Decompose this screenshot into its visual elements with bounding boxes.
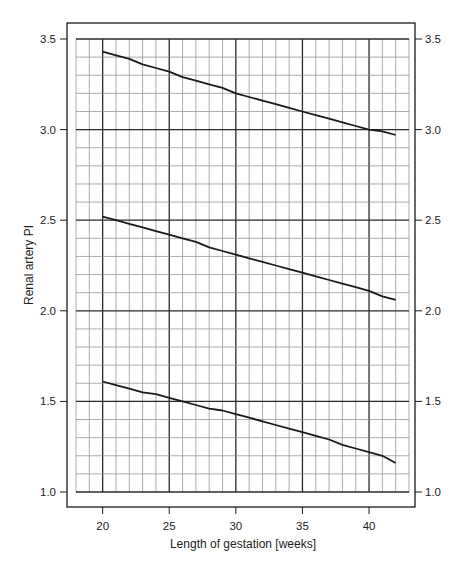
y-tick-label: 2.0 xyxy=(40,305,56,317)
x-tick-label: 30 xyxy=(229,520,242,532)
y-tick-label-right: 3.0 xyxy=(425,124,441,136)
x-tick-label: 25 xyxy=(163,520,176,532)
y-tick-label: 2.5 xyxy=(40,214,56,226)
y-tick-label: 1.0 xyxy=(40,486,56,498)
y-tick-label: 3.0 xyxy=(40,124,56,136)
x-tick-label: 35 xyxy=(296,520,309,532)
x-tick-label: 20 xyxy=(96,520,109,532)
x-axis: 2025303540 xyxy=(96,507,375,532)
y-tick-label-right: 1.5 xyxy=(425,395,441,407)
renal-artery-pi-chart: 1.01.52.02.53.03.5 1.01.52.02.53.03.5 20… xyxy=(0,0,465,579)
y-tick-label-right: 1.0 xyxy=(425,486,441,498)
x-axis-title: Length of gestation [weeks] xyxy=(170,537,316,551)
y-tick-label: 3.5 xyxy=(40,33,56,45)
y-axis-title: Renal artery PI xyxy=(22,225,36,305)
y-tick-label-right: 2.0 xyxy=(425,305,441,317)
x-tick-label: 40 xyxy=(363,520,376,532)
y-tick-label-right: 2.5 xyxy=(425,214,441,226)
grid xyxy=(76,39,409,492)
y-tick-label: 1.5 xyxy=(40,395,56,407)
left-y-axis: 1.01.52.02.53.03.5 xyxy=(40,33,67,498)
right-y-axis: 1.01.52.02.53.03.5 xyxy=(415,33,441,498)
y-tick-label-right: 3.5 xyxy=(425,33,441,45)
